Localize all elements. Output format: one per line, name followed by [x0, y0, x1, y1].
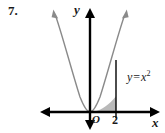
origin-label: O [92, 114, 100, 125]
x-tick-label-2: 2 [112, 114, 118, 126]
figure-container: 7. y x O 2 y=x2 [0, 0, 165, 133]
problem-number-label: 7. [8, 4, 18, 17]
y-axis-label: y [74, 3, 80, 16]
curve-left-arrowhead [52, 10, 59, 19]
x-axis-left-arrowhead [40, 107, 50, 117]
curve-equation-label: y=x2 [127, 70, 150, 83]
x-axis-label: x [152, 116, 159, 129]
graph-canvas [0, 0, 165, 133]
equation-equals-sign: = [132, 70, 141, 84]
y-axis-up-arrowhead [85, 8, 95, 18]
curve-right-arrowhead [122, 10, 129, 19]
equation-exponent: 2 [146, 69, 150, 78]
